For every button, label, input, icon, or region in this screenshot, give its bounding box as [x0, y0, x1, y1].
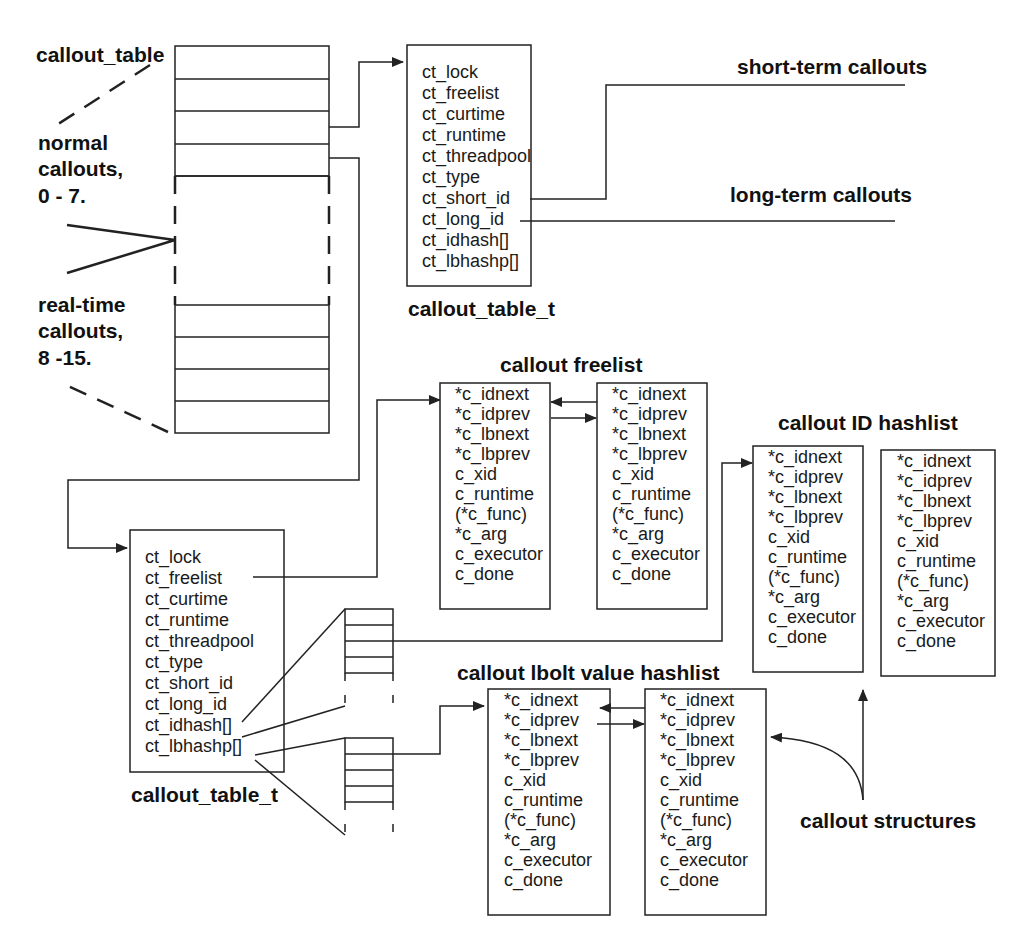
svg-text:c_xid: c_xid: [660, 770, 702, 791]
svg-text:ct_lock: ct_lock: [145, 547, 202, 568]
svg-text:ct_short_id: ct_short_id: [145, 673, 233, 694]
svg-text:*c_idnext: *c_idnext: [660, 690, 734, 711]
svg-text:*c_idprev: *c_idprev: [660, 710, 735, 731]
svg-text:ct_threadpool: ct_threadpool: [422, 146, 531, 167]
svg-text:*c_lbnext: *c_lbnext: [897, 491, 971, 512]
svg-text:c_done: c_done: [897, 631, 956, 652]
svg-text:*c_lbnext: *c_lbnext: [768, 487, 842, 508]
svg-text:*c_lbprev: *c_lbprev: [455, 444, 530, 465]
svg-text:*c_arg: *c_arg: [504, 830, 556, 851]
svg-text:ct_long_id: ct_long_id: [145, 694, 227, 715]
svg-text:c_runtime: c_runtime: [504, 790, 583, 811]
svg-text:(*c_func): (*c_func): [897, 571, 969, 592]
svg-text:(*c_func): (*c_func): [504, 810, 576, 831]
svg-text:c_runtime: c_runtime: [660, 790, 739, 811]
callout-table-t-top: ct_lock ct_freelist ct_curtime ct_runtim…: [407, 45, 555, 320]
svg-text:c_xid: c_xid: [455, 464, 497, 485]
svg-text:c_runtime: c_runtime: [768, 547, 847, 568]
svg-text:c_xid: c_xid: [897, 531, 939, 552]
svg-text:*c_idprev: *c_idprev: [455, 404, 530, 425]
svg-text:*c_lbprev: *c_lbprev: [612, 444, 687, 465]
svg-text:*c_arg: *c_arg: [660, 830, 712, 851]
svg-text:*c_idprev: *c_idprev: [612, 404, 687, 425]
svg-text:c_executor: c_executor: [660, 850, 748, 871]
svg-text:*c_lbnext: *c_lbnext: [660, 730, 734, 751]
svg-text:(*c_func): (*c_func): [660, 810, 732, 831]
svg-text:c_runtime: c_runtime: [455, 484, 534, 505]
svg-text:ct_long_id: ct_long_id: [422, 209, 504, 230]
svg-text:c_xid: c_xid: [612, 464, 654, 485]
callout-table-array: callout_table: [36, 43, 329, 433]
lbolt-hashlist-node-2: *c_idnext *c_idprev *c_lbnext *c_lbprev …: [645, 689, 766, 915]
svg-text:ct_threadpool: ct_threadpool: [145, 631, 254, 652]
svg-text:ct_type: ct_type: [422, 167, 480, 188]
svg-text:c_done: c_done: [612, 564, 671, 585]
svg-text:0 - 7.: 0 - 7.: [38, 184, 86, 207]
svg-text:*c_idnext: *c_idnext: [612, 384, 686, 405]
svg-text:c_done: c_done: [455, 564, 514, 585]
svg-text:callouts,: callouts,: [38, 157, 123, 180]
arrow-to-lbolt-hashlist: [771, 737, 863, 800]
svg-text:(*c_func): (*c_func): [612, 504, 684, 525]
svg-text:c_xid: c_xid: [504, 770, 546, 791]
realtime-callouts-label: real-time callouts, 8 -15.: [38, 293, 126, 369]
callout-table-t-top-label: callout_table_t: [408, 297, 555, 320]
callout-lbolt-hashlist-label: callout lbolt value hashlist: [457, 661, 720, 684]
svg-text:c_done: c_done: [768, 627, 827, 648]
callout-table-label: callout_table: [36, 43, 164, 66]
svg-text:*c_lbprev: *c_lbprev: [504, 750, 579, 771]
svg-text:ct_type: ct_type: [145, 652, 203, 673]
svg-text:c_done: c_done: [504, 870, 563, 891]
svg-text:ct_freelist: ct_freelist: [422, 83, 499, 104]
svg-text:8 -15.: 8 -15.: [38, 346, 92, 369]
svg-text:*c_arg: *c_arg: [897, 591, 949, 612]
freelist-node-1: *c_idnext *c_idprev *c_lbnext *c_lbprev …: [440, 383, 550, 609]
svg-text:real-time: real-time: [38, 293, 126, 316]
svg-text:c_executor: c_executor: [612, 544, 700, 565]
svg-text:*c_idprev: *c_idprev: [504, 710, 579, 731]
svg-text:normal: normal: [38, 131, 108, 154]
svg-text:*c_lbnext: *c_lbnext: [455, 424, 529, 445]
svg-text:*c_idnext: *c_idnext: [768, 447, 842, 468]
idhash-array: [345, 609, 393, 710]
svg-text:*c_lbprev: *c_lbprev: [660, 750, 735, 771]
svg-text:c_runtime: c_runtime: [612, 484, 691, 505]
svg-text:ct_runtime: ct_runtime: [145, 610, 229, 631]
svg-text:ct_runtime: ct_runtime: [422, 125, 506, 146]
svg-text:*c_lbnext: *c_lbnext: [612, 424, 686, 445]
svg-text:*c_lbprev: *c_lbprev: [897, 511, 972, 532]
svg-text:*c_idnext: *c_idnext: [455, 384, 529, 405]
svg-text:*c_arg: *c_arg: [455, 524, 507, 545]
svg-text:c_executor: c_executor: [504, 850, 592, 871]
callout-freelist-label: callout freelist: [500, 353, 642, 376]
short-term-callouts-label: short-term callouts: [737, 55, 927, 78]
svg-text:c_xid: c_xid: [768, 527, 810, 548]
svg-text:c_done: c_done: [660, 870, 719, 891]
svg-text:ct_freelist: ct_freelist: [145, 568, 222, 589]
normal-callouts-label: normal callouts, 0 - 7.: [38, 131, 123, 207]
svg-text:ct_short_id: ct_short_id: [422, 188, 510, 209]
svg-text:*c_arg: *c_arg: [768, 587, 820, 608]
svg-text:c_executor: c_executor: [897, 611, 985, 632]
svg-text:ct_lock: ct_lock: [422, 62, 479, 83]
svg-text:(*c_func): (*c_func): [455, 504, 527, 525]
freelist-node-2: *c_idnext *c_idprev *c_lbnext *c_lbprev …: [597, 383, 707, 609]
svg-text:ct_idhash[]: ct_idhash[]: [145, 715, 232, 736]
svg-text:*c_idprev: *c_idprev: [768, 467, 843, 488]
callout-table-t-bottom-label: callout_table_t: [131, 783, 278, 806]
callout-diagram: callout_table normal callouts, 0 - 7. re…: [0, 0, 1035, 945]
id-hashlist-node-2: *c_idnext *c_idprev *c_lbnext *c_lbprev …: [881, 450, 995, 676]
long-term-callouts-label: long-term callouts: [730, 183, 912, 206]
svg-text:*c_idnext: *c_idnext: [504, 690, 578, 711]
svg-text:ct_lbhashp[]: ct_lbhashp[]: [422, 251, 519, 272]
svg-text:*c_idnext: *c_idnext: [897, 451, 971, 472]
svg-text:(*c_func): (*c_func): [768, 567, 840, 588]
callout-structures-label: callout structures: [800, 809, 976, 832]
svg-text:*c_lbnext: *c_lbnext: [504, 730, 578, 751]
svg-text:ct_curtime: ct_curtime: [145, 589, 228, 610]
lbhash-array: [345, 738, 393, 835]
svg-text:callouts,: callouts,: [38, 319, 123, 342]
split-bracket: [67, 225, 175, 273]
svg-text:c_executor: c_executor: [768, 607, 856, 628]
svg-text:ct_lbhashp[]: ct_lbhashp[]: [145, 736, 242, 757]
